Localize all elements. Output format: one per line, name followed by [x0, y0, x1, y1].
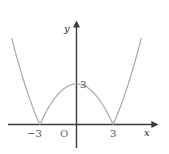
- x-tick-label-negative-three: −3: [27, 129, 42, 139]
- x-axis-label: x: [144, 128, 150, 138]
- y-tick-label-three: 3: [80, 80, 86, 90]
- origin-label: O: [60, 129, 68, 139]
- y-axis-label: y: [64, 24, 70, 34]
- math-graph-figure: y x O −3 3 3: [0, 0, 169, 154]
- x-tick-label-positive-three: 3: [110, 129, 116, 139]
